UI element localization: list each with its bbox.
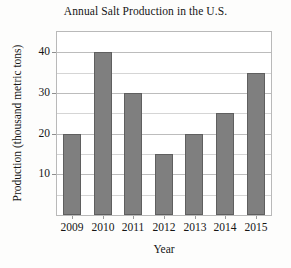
x-tick-label-2010: 2010	[86, 221, 120, 233]
chart-figure: Annual Salt Production in the U.S. Produ…	[0, 0, 291, 268]
x-tick-label-2013: 2013	[178, 221, 212, 233]
y-tick-label-30: 30	[20, 87, 50, 98]
y-tick-mark	[52, 134, 56, 135]
x-tick-mark	[256, 216, 257, 219]
x-tick-label-2012: 2012	[147, 221, 181, 233]
x-tick-label-2014: 2014	[208, 221, 242, 233]
x-axis-title: Year	[55, 243, 273, 255]
x-tick-label-2015: 2015	[239, 221, 273, 233]
y-tick-mark	[52, 93, 56, 94]
x-tick-mark	[195, 216, 196, 219]
x-tick-label-2011: 2011	[116, 221, 150, 233]
y-tick-label-20: 20	[20, 128, 50, 139]
x-tick-mark	[225, 216, 226, 219]
y-tick-mark	[52, 174, 56, 175]
bar-2013	[185, 134, 203, 215]
x-tick-label-2009: 2009	[55, 221, 89, 233]
gridline-minor	[57, 113, 271, 114]
x-tick-mark	[72, 216, 73, 219]
x-tick-mark	[164, 216, 165, 219]
bar-2014	[216, 113, 234, 215]
bar-2015	[247, 73, 265, 215]
y-tick-mark	[52, 52, 56, 53]
y-tick-label-10: 10	[20, 168, 50, 179]
gridline-major	[57, 134, 271, 135]
bar-2011	[124, 93, 142, 215]
bar-2009	[63, 134, 81, 215]
x-tick-mark	[103, 216, 104, 219]
gridline-major	[57, 93, 271, 94]
y-tick-label-40: 40	[20, 46, 50, 57]
gridline-minor	[57, 73, 271, 74]
chart-title: Annual Salt Production in the U.S.	[0, 4, 291, 18]
plot-area	[56, 31, 272, 216]
plot-inner	[57, 32, 271, 215]
x-tick-mark	[133, 216, 134, 219]
bar-2012	[155, 154, 173, 215]
gridline-major	[57, 52, 271, 53]
bar-2010	[94, 52, 112, 215]
